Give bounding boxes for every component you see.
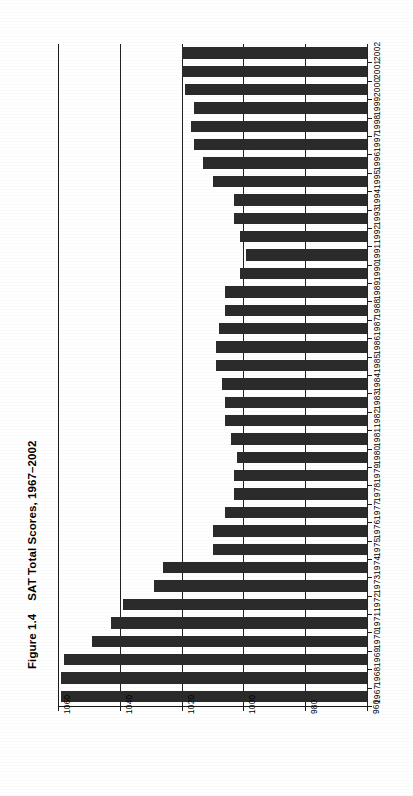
chart-row	[58, 265, 367, 283]
bar	[240, 268, 367, 279]
chart-row	[58, 338, 367, 356]
value-axis-label: 1000	[247, 695, 257, 714]
figure-container: Figure 1.4 SAT Total Scores, 1967–2002 1…	[0, 0, 413, 796]
chart-row	[58, 173, 367, 191]
chart-row	[58, 246, 367, 264]
chart-row	[58, 541, 367, 559]
chart-row	[58, 228, 367, 246]
bar	[191, 121, 367, 132]
bar	[234, 470, 367, 481]
value-axis-label: 1060	[62, 695, 72, 714]
chart-row	[58, 154, 367, 172]
chart-row	[58, 375, 367, 393]
bar	[234, 194, 367, 205]
chart-row	[58, 393, 367, 411]
chart-row	[58, 449, 367, 467]
chart-row	[58, 596, 367, 614]
value-axis-tick	[120, 706, 121, 711]
chart-row	[58, 283, 367, 301]
category-axis-line	[58, 706, 368, 707]
bar	[225, 286, 367, 297]
chart-row	[58, 99, 367, 117]
bar	[61, 691, 367, 702]
value-axis-tick	[58, 706, 59, 711]
chart-row	[58, 118, 367, 136]
chart-row	[58, 210, 367, 228]
chart-row	[58, 191, 367, 209]
bar	[92, 636, 367, 647]
chart-row	[58, 136, 367, 154]
chart-row	[58, 62, 367, 80]
bar	[216, 341, 367, 352]
chart-row	[58, 44, 367, 62]
chart-row	[58, 522, 367, 540]
bar	[203, 157, 367, 168]
value-axis-label: 1020	[186, 695, 196, 714]
page-title: SAT Total Scores, 1967–2002	[26, 441, 38, 601]
bar	[213, 525, 368, 536]
chart-row	[58, 669, 367, 687]
value-axis-tick	[305, 706, 306, 711]
chart-row	[58, 430, 367, 448]
category-axis-tick	[368, 706, 372, 707]
chart-row	[58, 651, 367, 669]
bar	[237, 452, 367, 463]
figure-number: Figure 1.4	[26, 614, 38, 669]
chart-row	[58, 467, 367, 485]
value-axis-label: 1040	[124, 695, 134, 714]
bar	[213, 544, 368, 555]
chart-row	[58, 577, 367, 595]
bar	[222, 378, 367, 389]
bar	[185, 84, 367, 95]
chart-row	[58, 559, 367, 577]
chart-row	[58, 688, 367, 706]
chart-row	[58, 412, 367, 430]
chart-row	[58, 301, 367, 319]
value-axis-tick	[243, 706, 244, 711]
bar	[154, 580, 367, 591]
value-axis-label: 980	[309, 700, 319, 714]
bar	[61, 672, 367, 683]
chart-row	[58, 485, 367, 503]
bar	[225, 305, 367, 316]
bar	[246, 249, 367, 260]
figure-title-block: Figure 1.4 SAT Total Scores, 1967–2002	[12, 9, 38, 669]
bar	[163, 562, 367, 573]
bar	[64, 654, 367, 665]
bar	[240, 231, 367, 242]
bar	[182, 66, 367, 77]
bar	[213, 176, 368, 187]
plot-area	[58, 44, 367, 706]
bar	[111, 617, 367, 628]
value-axis-tick	[182, 706, 183, 711]
chart-row	[58, 320, 367, 338]
bar	[219, 323, 367, 334]
chart-row	[58, 81, 367, 99]
category-axis-label: 1967	[372, 670, 386, 704]
chart-row	[58, 504, 367, 522]
bar	[225, 507, 367, 518]
bar	[225, 415, 367, 426]
bar	[123, 599, 367, 610]
chart-row	[58, 357, 367, 375]
bar	[234, 213, 367, 224]
bar	[216, 360, 367, 371]
bar	[182, 47, 367, 58]
bar	[234, 488, 367, 499]
bar	[194, 102, 367, 113]
bar	[225, 397, 367, 408]
chart-row	[58, 614, 367, 632]
chart-row	[58, 632, 367, 650]
bar	[231, 433, 367, 444]
bar	[194, 139, 367, 150]
